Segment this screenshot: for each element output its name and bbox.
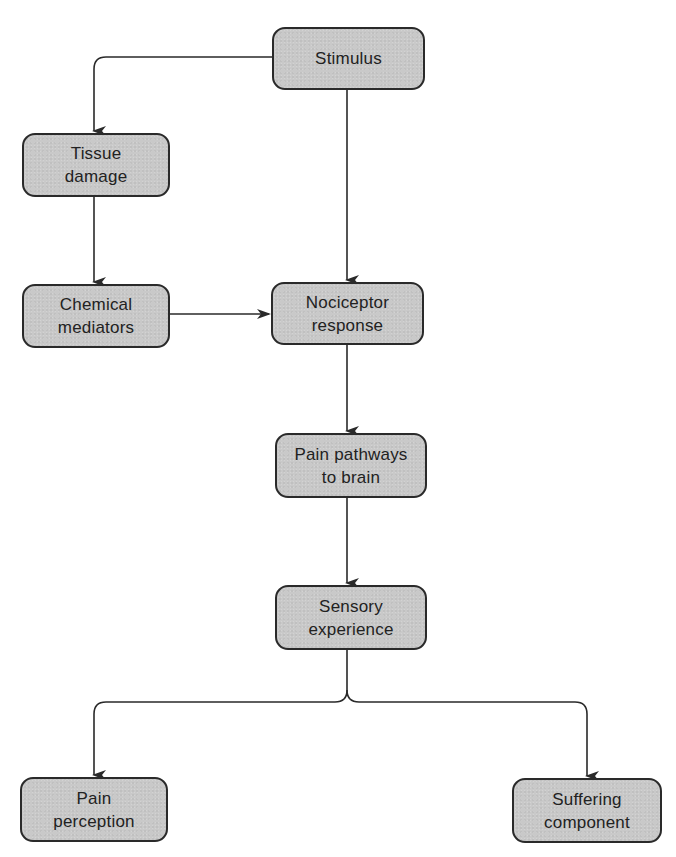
node-label-line2: to brain bbox=[322, 466, 380, 489]
node-label-line2: perception bbox=[53, 810, 134, 833]
node-pain-perception: Pain perception bbox=[20, 777, 168, 842]
node-label-line1: Pain bbox=[77, 787, 112, 810]
node-label-line1: Pain pathways bbox=[294, 443, 407, 466]
edge-stimulus-to-tissue-damage bbox=[94, 57, 272, 131]
connector-layer bbox=[0, 0, 676, 857]
node-label-line2: mediators bbox=[58, 316, 134, 339]
edge-sensory-to-perception bbox=[94, 650, 347, 775]
node-tissue-damage: Tissue damage bbox=[22, 133, 170, 197]
node-stimulus: Stimulus bbox=[272, 27, 425, 90]
node-suffering-component: Suffering component bbox=[512, 778, 662, 843]
node-label-line1: Nociceptor bbox=[306, 291, 389, 314]
node-label-line2: response bbox=[312, 314, 384, 337]
node-label-line1: Sensory bbox=[319, 595, 383, 618]
node-label-line2: component bbox=[544, 811, 630, 834]
node-label-line1: Tissue bbox=[71, 142, 122, 165]
node-sensory-experience: Sensory experience bbox=[275, 585, 427, 650]
edge-sensory-to-suffering bbox=[347, 690, 587, 776]
node-chemical-mediators: Chemical mediators bbox=[22, 284, 170, 348]
node-label-line2: damage bbox=[65, 165, 128, 188]
node-nociceptor-response: Nociceptor response bbox=[271, 282, 424, 345]
node-label-line1: Chemical bbox=[60, 293, 132, 316]
node-label-line2: experience bbox=[308, 618, 393, 641]
node-label-line1: Suffering bbox=[552, 788, 622, 811]
node-pain-pathways: Pain pathways to brain bbox=[275, 433, 427, 498]
pain-flowchart: Stimulus Tissue damage Chemical mediator… bbox=[0, 0, 676, 857]
node-label: Stimulus bbox=[315, 47, 382, 70]
